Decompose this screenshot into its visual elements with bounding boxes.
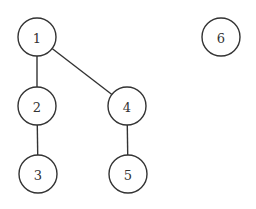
- node-label: 4: [123, 100, 131, 115]
- node-1: 1: [18, 18, 56, 56]
- nodes: 123456: [18, 18, 240, 193]
- node-label: 2: [33, 100, 41, 115]
- node-label: 3: [34, 168, 42, 183]
- node-5: 5: [109, 155, 147, 193]
- node-3: 3: [19, 155, 57, 193]
- node-4: 4: [108, 87, 146, 125]
- edge-1-4: [52, 49, 112, 95]
- node-6: 6: [202, 18, 240, 56]
- node-label: 6: [217, 31, 225, 46]
- node-2: 2: [18, 87, 56, 125]
- node-label: 5: [124, 168, 132, 183]
- graph-canvas: 123456: [0, 0, 256, 209]
- node-label: 1: [33, 31, 41, 46]
